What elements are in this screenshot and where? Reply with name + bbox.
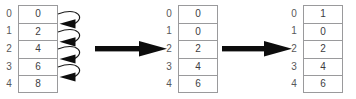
array-row: 2 2 <box>285 40 343 58</box>
array-cell: 1 <box>303 5 343 23</box>
array-cell: 0 <box>178 5 218 23</box>
shift-arrow-3-to-4-head <box>60 72 76 81</box>
transition-arrow-1 <box>95 38 167 60</box>
diagram-canvas: 0 0 1 2 2 4 3 6 4 8 <box>0 0 356 99</box>
index-label: 4 <box>160 75 178 93</box>
array-cell: 2 <box>303 40 343 58</box>
array-row: 0 1 <box>285 5 343 23</box>
array-row: 2 2 <box>160 40 218 58</box>
array-row: 0 0 <box>0 5 58 23</box>
transition-arrow-2 <box>222 38 292 60</box>
array-cell: 0 <box>303 23 343 41</box>
index-label: 2 <box>0 40 18 58</box>
arrow-shaft <box>95 46 145 51</box>
index-label: 1 <box>0 23 18 41</box>
array-row: 4 6 <box>160 75 218 93</box>
array-row: 0 0 <box>160 5 218 23</box>
index-label: 0 <box>160 5 178 23</box>
array-cell: 2 <box>18 23 58 41</box>
shift-arrow-1-to-2-head <box>60 37 76 46</box>
index-label: 4 <box>285 75 303 93</box>
index-label: 1 <box>160 23 178 41</box>
index-label: 0 <box>285 5 303 23</box>
array-cell: 6 <box>303 75 343 93</box>
shift-arrow-2-to-3-head <box>60 54 76 63</box>
array-row: 1 0 <box>160 23 218 41</box>
array-cell: 4 <box>178 58 218 76</box>
array-cell: 4 <box>303 58 343 76</box>
array-row: 4 6 <box>285 75 343 93</box>
array-cell: 6 <box>18 58 58 76</box>
array-row: 1 0 <box>285 23 343 41</box>
index-label: 4 <box>0 75 18 93</box>
array-cell: 6 <box>178 75 218 93</box>
array-row: 2 4 <box>0 40 58 58</box>
array-cell: 2 <box>178 40 218 58</box>
array-cell: 0 <box>18 5 58 23</box>
array-row: 3 4 <box>285 58 343 76</box>
shift-arrow-0-to-1-head <box>60 19 76 28</box>
array-initial: 0 0 1 2 2 4 3 6 4 8 <box>0 5 58 93</box>
index-label: 3 <box>0 58 18 76</box>
array-cell: 4 <box>18 40 58 58</box>
array-final: 0 1 1 0 2 2 3 4 4 6 <box>285 5 343 93</box>
index-label: 0 <box>0 5 18 23</box>
array-cell: 8 <box>18 75 58 93</box>
index-label: 3 <box>285 58 303 76</box>
array-shifted: 0 0 1 0 2 2 3 4 4 6 <box>160 5 218 93</box>
array-row: 4 8 <box>0 75 58 93</box>
array-cell: 0 <box>178 23 218 41</box>
index-label: 2 <box>285 40 303 58</box>
index-label: 2 <box>160 40 178 58</box>
index-label: 3 <box>160 58 178 76</box>
array-row: 3 6 <box>0 58 58 76</box>
index-label: 1 <box>285 23 303 41</box>
array-row: 3 4 <box>160 58 218 76</box>
shift-arrows-group <box>56 5 90 95</box>
arrow-shaft <box>222 46 270 51</box>
array-row: 1 2 <box>0 23 58 41</box>
